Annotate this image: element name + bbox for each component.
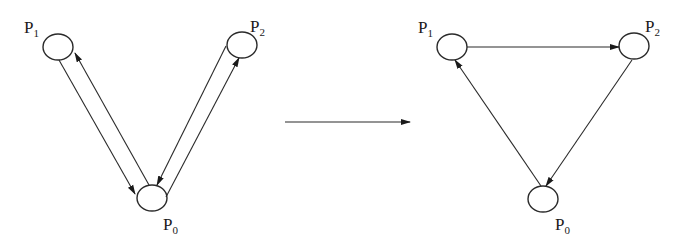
edge-p2-to-p0: [157, 46, 226, 185]
left-graph: P1 P2 P0: [24, 17, 265, 236]
label-p0-right: P0: [555, 215, 570, 236]
label-p1-right: P1: [418, 18, 433, 39]
label-p1-left: P1: [24, 18, 39, 39]
right-graph: P1 P2 P0: [418, 17, 660, 236]
edge-p1-to-p0: [59, 60, 135, 194]
label-p2-left: P2: [250, 17, 265, 38]
node-p2-right: [619, 33, 649, 59]
node-p1-left: [43, 34, 73, 60]
edge-p0-to-p1: [455, 60, 541, 186]
edge-p0-to-p2: [166, 58, 239, 197]
node-p1-right: [437, 34, 467, 60]
node-p0-left: [137, 185, 167, 211]
edge-p2-to-p0: [546, 60, 632, 186]
node-p0-right: [528, 186, 558, 212]
edge-p0-to-p1: [75, 53, 149, 185]
diagram-canvas: P1 P2 P0 P1 P2 P0: [0, 0, 681, 246]
label-p2-right: P2: [645, 17, 660, 38]
label-p0-left: P0: [163, 215, 178, 236]
